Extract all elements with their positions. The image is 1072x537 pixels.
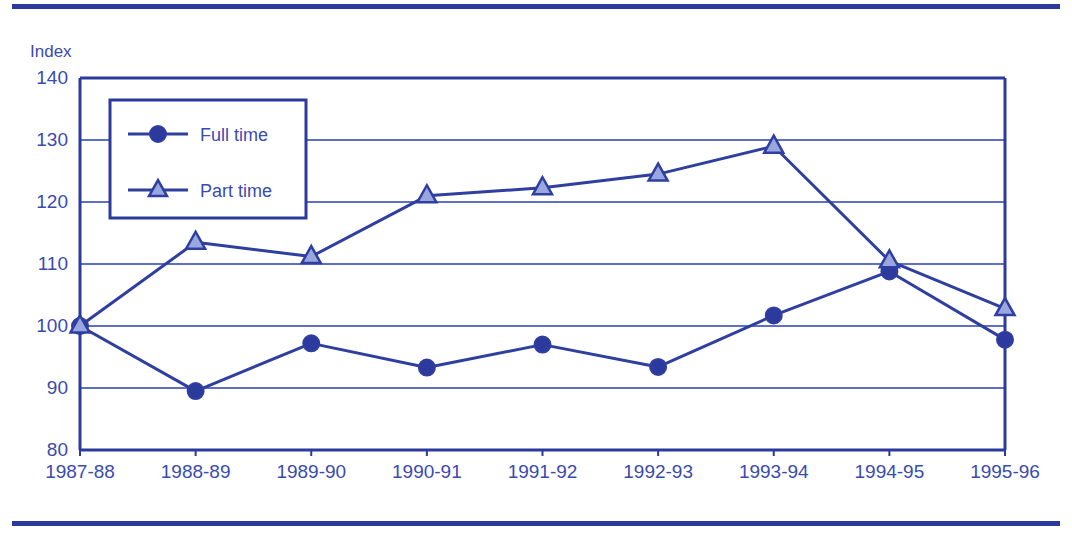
line-chart-plot: Full timePart time	[0, 0, 1072, 537]
x-axis-tick-label: 1993-94	[714, 462, 834, 481]
chart-legend: Full timePart time	[110, 100, 306, 218]
y-axis-tick-label: 140	[22, 68, 68, 87]
data-point-marker	[650, 359, 666, 375]
y-axis-tick-label: 90	[22, 378, 68, 397]
data-point-marker	[419, 360, 435, 376]
y-axis-tick-label: 130	[22, 130, 68, 149]
data-point-marker	[186, 232, 205, 249]
legend-item-label: Full time	[200, 125, 268, 145]
data-point-marker	[766, 307, 782, 323]
x-axis-tick-label: 1989-90	[251, 462, 371, 481]
legend-circle-icon	[150, 126, 166, 142]
series-line-full-time	[80, 271, 1005, 391]
y-axis-tick-label: 110	[22, 254, 68, 273]
x-axis-tick-label: 1987-88	[20, 462, 140, 481]
chart-figure: Index Full timePart time 809010011012013…	[0, 0, 1072, 537]
x-axis-tick-label: 1991-92	[483, 462, 603, 481]
x-axis-tick-label: 1988-89	[136, 462, 256, 481]
legend-item-label: Part time	[200, 181, 272, 201]
y-axis-tick-label: 100	[22, 316, 68, 335]
x-axis-tick-label: 1994-95	[829, 462, 949, 481]
x-axis-tick-label: 1995-96	[945, 462, 1065, 481]
y-axis-tick-label: 80	[22, 440, 68, 459]
data-point-marker	[417, 185, 436, 202]
x-axis-tick-label: 1992-93	[598, 462, 718, 481]
x-axis-tick-label: 1990-91	[367, 462, 487, 481]
data-point-marker	[764, 136, 783, 153]
data-point-marker	[188, 383, 204, 399]
data-point-marker	[535, 337, 551, 353]
data-point-marker	[997, 332, 1013, 348]
data-point-marker	[303, 335, 319, 351]
y-axis-tick-label: 120	[22, 192, 68, 211]
